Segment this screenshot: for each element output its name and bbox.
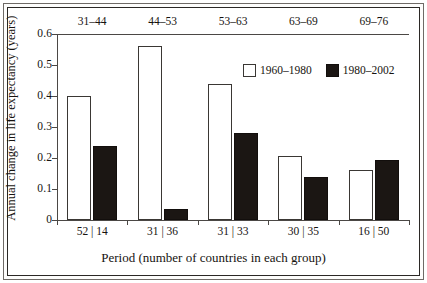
y-axis-tick-label: 0.5 <box>10 59 52 71</box>
bar-series1 <box>138 46 162 220</box>
group-header-label: 63–69 <box>263 16 343 28</box>
legend-label: 1980–2002 <box>343 65 395 77</box>
axis-left-line <box>57 34 58 220</box>
legend: 1960–19801980–2002 <box>243 64 395 77</box>
y-axis-tick <box>52 189 57 190</box>
y-axis-tick-label: 0.4 <box>10 90 52 102</box>
bar-series2 <box>375 160 399 220</box>
y-axis-tick-label: 0.3 <box>10 121 52 133</box>
x-axis-title: Period (number of countries in each grou… <box>0 251 427 264</box>
y-axis-tick-label: 0.1 <box>10 183 52 195</box>
y-axis-title: Annual change in life expectancy (years) <box>5 8 18 228</box>
axis-top-line <box>57 34 409 35</box>
x-axis-tick <box>198 220 199 225</box>
bar-series1 <box>208 84 232 220</box>
y-axis-tick <box>52 96 57 97</box>
y-axis-tick-label: 0.2 <box>10 152 52 164</box>
y-axis-tick-label: 0 <box>10 214 52 226</box>
x-axis-category-label: 31 | 36 <box>123 226 203 238</box>
bar-series1 <box>278 156 302 220</box>
x-axis-tick <box>57 220 58 225</box>
axis-bottom-line <box>57 220 409 221</box>
x-axis-category-label: 30 | 35 <box>263 226 343 238</box>
legend-entry: 1980–2002 <box>326 64 395 77</box>
legend-label: 1960–1980 <box>260 65 312 77</box>
group-header-label: 31–44 <box>52 16 132 28</box>
legend-swatch-icon <box>243 64 256 77</box>
y-axis-tick <box>52 65 57 66</box>
x-axis-tick <box>268 220 269 225</box>
y-axis-tick <box>52 34 57 35</box>
x-axis-category-label: 31 | 33 <box>193 226 273 238</box>
bar-series2 <box>304 177 328 220</box>
y-axis-tick-label: 0.6 <box>10 28 52 40</box>
plot-area <box>57 34 409 220</box>
figure-chart-life-expectancy: Annual change in life expectancy (years)… <box>0 0 427 283</box>
bar-series2 <box>93 146 117 220</box>
bar-series2 <box>234 133 258 220</box>
legend-swatch-icon <box>326 64 339 77</box>
x-axis-category-label: 52 | 14 <box>52 226 132 238</box>
group-header-label: 69–76 <box>334 16 414 28</box>
bar-series1 <box>349 170 373 220</box>
y-axis-tick <box>52 127 57 128</box>
x-axis-tick <box>339 220 340 225</box>
y-axis-tick <box>52 158 57 159</box>
group-header-label: 44–53 <box>123 16 203 28</box>
legend-entry: 1960–1980 <box>243 64 312 77</box>
x-axis-tick <box>409 220 410 225</box>
bar-series2 <box>164 209 188 220</box>
x-axis-tick <box>127 220 128 225</box>
x-axis-category-label: 16 | 50 <box>334 226 414 238</box>
group-header-label: 53–63 <box>193 16 273 28</box>
bar-series1 <box>67 96 91 220</box>
